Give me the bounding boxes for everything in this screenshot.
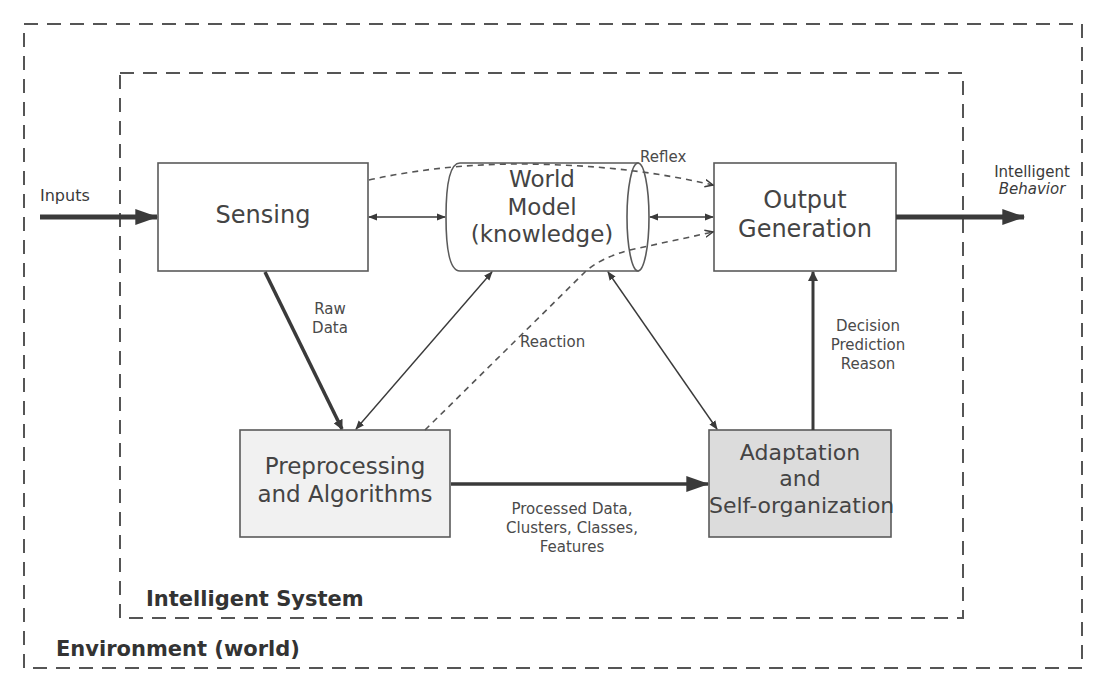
- reflex-text: Reflex: [640, 148, 686, 166]
- raw-data-line1: Raw: [300, 300, 360, 319]
- intelligent-system-text: Intelligent System: [146, 587, 364, 611]
- world-model-line1: World: [446, 166, 638, 194]
- reflex-label: Reflex: [640, 148, 686, 167]
- output-generation-line2: Generation: [714, 215, 896, 244]
- processed-line3: Features: [492, 538, 652, 557]
- raw-data-arrow: [265, 272, 342, 429]
- inputs-text: Inputs: [40, 186, 90, 205]
- preprocessing-world-model-arrow: [356, 272, 492, 429]
- reaction-text: Reaction: [520, 333, 585, 351]
- raw-data-label: Raw Data: [300, 300, 360, 338]
- world-model-adaptation-arrow: [608, 272, 717, 429]
- sensing-text: Sensing: [216, 201, 311, 229]
- intelligent-system-region-label: Intelligent System: [146, 587, 364, 611]
- decision-line2: Prediction: [820, 336, 916, 355]
- processed-line2: Clusters, Classes,: [492, 519, 652, 538]
- adaptation-line2: and: [709, 466, 891, 492]
- decision-line1: Decision: [820, 317, 916, 336]
- intelligent-system-diagram: Sensing World Model (knowledge) Output G…: [0, 0, 1106, 698]
- preprocessing-line2: and Algorithms: [240, 481, 450, 509]
- inputs-label: Inputs: [40, 187, 90, 205]
- intelligent-behavior-line2: Behavior: [974, 181, 1090, 198]
- output-generation-line1: Output: [714, 186, 896, 215]
- preprocessing-label: Preprocessing and Algorithms: [240, 453, 450, 508]
- decision-line3: Reason: [820, 355, 916, 374]
- processed-line1: Processed Data,: [492, 500, 652, 519]
- output-generation-label: Output Generation: [714, 186, 896, 244]
- world-model-label: World Model (knowledge): [446, 166, 638, 249]
- raw-data-line2: Data: [300, 319, 360, 338]
- intelligent-behavior-label: Intelligent Behavior: [974, 164, 1090, 199]
- environment-region-label: Environment (world): [56, 637, 300, 661]
- adaptation-line1: Adaptation: [709, 440, 891, 466]
- sensing-label: Sensing: [158, 201, 368, 230]
- preprocessing-line1: Preprocessing: [240, 453, 450, 481]
- adaptation-label: Adaptation and Self-organization: [709, 440, 891, 519]
- world-model-line3: (knowledge): [446, 221, 638, 249]
- environment-text: Environment (world): [56, 637, 300, 661]
- world-model-line2: Model: [446, 194, 638, 222]
- decision-label: Decision Prediction Reason: [820, 317, 916, 373]
- processed-data-label: Processed Data, Clusters, Classes, Featu…: [492, 500, 652, 556]
- adaptation-line3: Self-organization: [709, 493, 891, 519]
- reaction-label: Reaction: [520, 333, 585, 352]
- intelligent-behavior-line1: Intelligent: [974, 164, 1090, 181]
